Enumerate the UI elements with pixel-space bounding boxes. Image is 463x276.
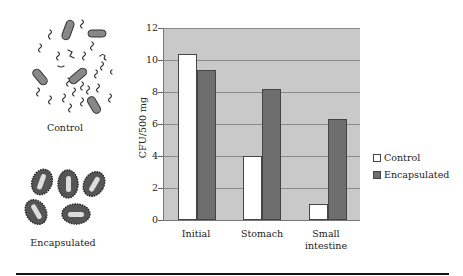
x-label-initial: Initial: [163, 228, 229, 240]
x-label-stomach: Stomach: [229, 228, 295, 240]
y-tick-8: 8: [138, 86, 158, 97]
plot-area: [163, 28, 360, 221]
bar-control-stomach: [243, 156, 262, 220]
legend-item-encapsulated: Encapsulated: [373, 169, 449, 180]
legend-label-control: Control: [384, 152, 420, 163]
y-tick-4: 4: [138, 150, 158, 161]
bar-encapsulated-small-intestine: [328, 119, 347, 220]
y-tick-6: 6: [138, 118, 158, 129]
x-label-line2: intestine: [293, 240, 359, 252]
bar-control-small-intestine: [309, 204, 328, 220]
y-tick-2: 2: [138, 182, 158, 193]
x-label-small-intestine: Small intestine: [293, 228, 359, 252]
control-illustration-label: Control: [15, 122, 115, 133]
y-tick-12: 12: [138, 22, 158, 33]
free-bacteria-icon: [10, 6, 120, 114]
legend-swatch-control: [373, 154, 381, 162]
bar-control-initial: [178, 54, 197, 220]
legend-item-control: Control: [373, 152, 420, 163]
bottom-rule: [16, 273, 449, 275]
x-label-line1: Small: [293, 228, 359, 240]
bar-encapsulated-initial: [197, 70, 216, 220]
gridline: [164, 28, 360, 29]
encapsulated-illustration-label: Encapsulated: [13, 237, 113, 248]
legend-swatch-encapsulated: [373, 171, 381, 179]
y-tick-10: 10: [138, 54, 158, 65]
bar-encapsulated-stomach: [262, 89, 281, 220]
legend-label-encapsulated: Encapsulated: [384, 169, 449, 180]
encapsulated-bacteria-icon: [20, 168, 115, 230]
y-tick-0: 0: [138, 214, 158, 225]
